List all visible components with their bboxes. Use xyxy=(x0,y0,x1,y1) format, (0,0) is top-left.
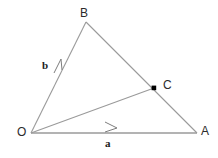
vector-label-b: b xyxy=(42,60,48,71)
arrowhead-vector-b-icon xyxy=(54,59,62,73)
point-label-a: A xyxy=(201,125,209,137)
arrowhead-vector-a-icon xyxy=(105,122,117,132)
diagram-canvas xyxy=(0,0,218,158)
point-label-b: B xyxy=(80,7,88,19)
segment-ba xyxy=(86,22,197,133)
point-label-o: O xyxy=(17,126,26,138)
point-c-dot-icon xyxy=(152,86,157,91)
vector-label-a: a xyxy=(105,138,111,149)
point-label-c: C xyxy=(163,79,172,91)
vector-diagram-figure: B O A C b a xyxy=(0,0,218,158)
